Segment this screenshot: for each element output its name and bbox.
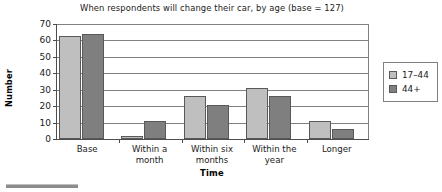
y-axis-tick-label: 10 bbox=[40, 118, 51, 127]
bar bbox=[121, 136, 143, 139]
bar bbox=[309, 121, 331, 139]
x-axis-category-label: Within theyear bbox=[243, 144, 305, 166]
x-axis-category-label: Within amonth bbox=[118, 144, 180, 166]
y-axis-tick-label: 50 bbox=[40, 52, 51, 61]
y-axis-tick-label: 0 bbox=[45, 135, 51, 144]
bar-group bbox=[119, 24, 181, 139]
x-axis-category-label-line: Within the bbox=[243, 144, 305, 155]
x-axis-category-label-line: Within six bbox=[181, 144, 243, 155]
legend-swatch bbox=[389, 71, 397, 79]
x-axis-category-label: Longer bbox=[306, 144, 368, 155]
y-axis-tick-label: 30 bbox=[40, 85, 51, 94]
bar bbox=[269, 96, 291, 139]
bar bbox=[59, 36, 81, 140]
bars-layer bbox=[57, 24, 369, 139]
plot-area: 010203040506070 bbox=[56, 24, 369, 140]
bar-group bbox=[244, 24, 306, 139]
y-axis-tick-label: 40 bbox=[40, 69, 51, 78]
y-axis-tick-label: 60 bbox=[40, 36, 51, 45]
bar-group bbox=[57, 24, 119, 139]
x-axis-category-label: Base bbox=[56, 144, 118, 155]
bar-group bbox=[182, 24, 244, 139]
y-axis-tick bbox=[53, 139, 57, 140]
chart-legend: 17–4444+ bbox=[383, 62, 438, 102]
bottom-rule bbox=[6, 184, 78, 188]
y-axis-tick bbox=[53, 123, 57, 124]
legend-label: 44+ bbox=[402, 84, 421, 94]
legend-item: 17–44 bbox=[389, 68, 433, 82]
x-axis-title: Time bbox=[56, 168, 368, 178]
y-axis-tick bbox=[53, 57, 57, 58]
legend-item: 44+ bbox=[389, 82, 433, 96]
bar bbox=[207, 105, 229, 140]
legend-swatch bbox=[389, 85, 397, 93]
x-axis-category-label-line: year bbox=[243, 155, 305, 166]
bar-group bbox=[307, 24, 369, 139]
bar bbox=[184, 96, 206, 139]
x-axis-tick bbox=[244, 139, 245, 143]
y-axis-title: Number bbox=[4, 58, 14, 118]
x-axis-category-label-line: months bbox=[181, 155, 243, 166]
x-axis-category-label-line: Within a bbox=[118, 144, 180, 155]
x-axis-category-label-line: Base bbox=[56, 144, 118, 155]
y-axis-tick bbox=[53, 106, 57, 107]
x-axis-tick bbox=[119, 139, 120, 143]
bar bbox=[144, 121, 166, 139]
y-axis-tick bbox=[53, 40, 57, 41]
bar bbox=[82, 34, 104, 139]
y-axis-tick bbox=[53, 24, 57, 25]
x-axis-category-label-line: Longer bbox=[306, 144, 368, 155]
y-axis-tick bbox=[53, 73, 57, 74]
bar-chart-figure: When respondents will change their car, … bbox=[0, 0, 442, 192]
y-axis-tick-label: 70 bbox=[40, 20, 51, 29]
x-axis-tick bbox=[182, 139, 183, 143]
y-axis-tick-label: 20 bbox=[40, 102, 51, 111]
x-axis-tick bbox=[307, 139, 308, 143]
x-axis-category-label: Within sixmonths bbox=[181, 144, 243, 166]
bar bbox=[246, 88, 268, 139]
bar bbox=[332, 129, 354, 139]
x-axis-category-label-line: month bbox=[118, 155, 180, 166]
y-axis-tick bbox=[53, 90, 57, 91]
chart-title: When respondents will change their car, … bbox=[56, 3, 368, 14]
legend-label: 17–44 bbox=[402, 70, 429, 80]
